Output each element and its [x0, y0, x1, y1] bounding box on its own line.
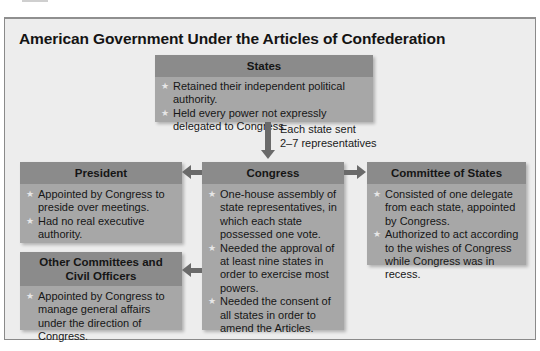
committee-of-states-list: ★Consisted of one delegate from each sta…: [367, 184, 526, 288]
arrow-label: Each state sent 2–7 representatives: [280, 123, 377, 150]
states-box: States ★Retained their independent polit…: [155, 55, 373, 122]
star-bullet-icon: ★: [373, 228, 381, 241]
other-committees-header: Other Committees and Civil Officers: [20, 252, 182, 286]
arrow-to-other-committees: [190, 268, 202, 273]
committee-of-states-header: Committee of States: [367, 162, 526, 184]
star-bullet-icon: ★: [208, 242, 216, 255]
down-arrow-shaft: [265, 122, 271, 151]
star-bullet-icon: ★: [26, 290, 34, 303]
congress-list: ★One-house assembly of state representat…: [202, 184, 344, 341]
list-item: ★Appointed by Congress to manage general…: [26, 290, 176, 344]
president-header: President: [20, 162, 182, 184]
diagram-title: American Government Under the Articles o…: [19, 30, 445, 48]
list-item: ★One-house assembly of state representat…: [208, 188, 338, 242]
list-item: ★Retained their independent political au…: [161, 80, 367, 107]
arrow-to-president: [190, 170, 202, 175]
star-bullet-icon: ★: [208, 188, 216, 201]
other-committees-list: ★Appointed by Congress to manage general…: [20, 286, 182, 350]
star-bullet-icon: ★: [161, 107, 169, 120]
list-item: ★Had no real executive authority.: [26, 215, 176, 242]
list-item: ★Authorized to act according to the wish…: [373, 228, 520, 282]
list-item: ★Needed the approval of at least nine st…: [208, 242, 338, 296]
star-bullet-icon: ★: [161, 80, 169, 93]
list-item: ★Needed the consent of all states in ord…: [208, 295, 338, 335]
star-bullet-icon: ★: [26, 215, 34, 228]
list-item: ★Consisted of one delegate from each sta…: [373, 188, 520, 228]
right-arrow-icon: [357, 165, 366, 179]
down-arrow-icon: [261, 150, 275, 159]
star-bullet-icon: ★: [26, 188, 34, 201]
states-header: States: [155, 55, 373, 77]
list-item: ★Appointed by Congress to preside over m…: [26, 188, 176, 215]
president-box: President ★Appointed by Congress to pres…: [20, 162, 182, 243]
congress-header: Congress: [202, 162, 344, 184]
star-bullet-icon: ★: [373, 188, 381, 201]
top-decoration: [22, 0, 48, 2]
president-list: ★Appointed by Congress to preside over m…: [20, 184, 182, 248]
other-committees-box: Other Committees and Civil Officers ★App…: [20, 252, 182, 330]
arrow-to-committee-of-states: [344, 170, 358, 175]
congress-box: Congress ★One-house assembly of state re…: [202, 162, 344, 330]
star-bullet-icon: ★: [208, 295, 216, 308]
committee-of-states-box: Committee of States ★Consisted of one de…: [367, 162, 526, 265]
